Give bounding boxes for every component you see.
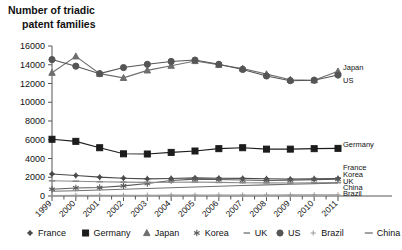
legend-label: Japan [155,228,180,238]
data-point-square [73,138,79,144]
y-tick-label: 12000 [20,79,45,89]
y-tick-label: 8000 [25,116,45,126]
data-point-circle [216,61,222,67]
data-point-square [83,230,89,236]
data-point-square [287,146,293,152]
data-point-circle [277,230,283,236]
y-tick-label: 10000 [20,97,45,107]
legend-label: US [288,228,301,238]
legend-label: France [38,228,66,238]
series-end-label-japan: Japan [343,63,363,72]
legend-label: Korea [205,228,229,238]
data-point-circle [287,78,293,84]
data-point-square [97,145,103,151]
y-tick-label: 2000 [25,172,45,182]
data-point-circle [144,61,150,67]
data-point-circle [192,57,198,63]
y-tick-label: 14000 [20,60,45,70]
series-end-label-germany: Germany [343,140,374,149]
data-point-square [192,148,198,154]
series-end-label-china: China [343,183,363,192]
data-point-circle [97,71,103,77]
legend-label: China [377,228,401,238]
y-tick-label: 4000 [25,154,45,164]
legend-item-us[interactable]: US [277,228,301,238]
data-point-circle [311,77,317,83]
data-point-circle [335,72,341,78]
data-point-square [144,151,150,157]
data-point-circle [49,56,55,62]
data-point-square [168,149,174,155]
y-tick-label: 6000 [25,135,45,145]
data-point-square [121,151,127,157]
legend-label: Germany [94,228,132,238]
y-tick-label: 16000 [20,41,45,51]
data-point-square [311,146,317,152]
chart-title-line2: patent families [22,18,96,30]
legend-label: Brazil [321,228,344,238]
data-point-square [240,145,246,151]
series-end-label-us: US [343,76,353,85]
triadic-patent-families-chart: Number of triadic patent families 020004… [0,0,402,250]
data-point-circle [263,73,269,79]
data-point-square [49,136,55,142]
data-point-circle [168,58,174,64]
data-point-square [335,145,341,151]
data-point-square [264,146,270,152]
chart-title-line1: Number of triadic [8,4,95,16]
data-point-circle [240,66,246,72]
data-point-circle [73,63,79,69]
legend-label: UK [255,228,268,238]
data-point-circle [120,64,126,70]
data-point-square [216,146,222,152]
